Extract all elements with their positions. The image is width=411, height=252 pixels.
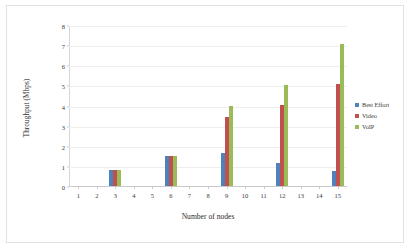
legend-item[interactable]: Best Effort [355,99,389,110]
y-tick-mark [67,46,69,47]
bar-group [220,25,234,186]
bar-voip [284,85,288,186]
y-tick-label: 3 [62,123,65,130]
bar-group [108,25,122,186]
legend-item[interactable]: Video [355,110,389,121]
x-tick-label: 9 [225,192,228,199]
x-tick-label: 3 [114,192,117,199]
x-tick-label: 6 [169,192,172,199]
x-tick-label: 5 [151,192,154,199]
y-tick-label: 2 [62,143,65,150]
bar-voip [117,170,121,186]
legend-swatch-icon [355,125,359,129]
y-tick-label: 0 [62,184,65,191]
x-tick-mark [134,187,135,189]
x-tick-mark [189,187,190,189]
y-tick-mark [67,166,69,167]
chart-frame: Throughput (Mbps) 012345678 123456789101… [6,5,404,243]
bar-group [164,25,178,186]
x-tick-label: 10 [242,192,249,199]
x-tick-label: 1 [77,192,80,199]
x-axis-title: Number of nodes [69,212,347,221]
x-tick-mark [227,187,228,189]
x-tick-mark [152,187,153,189]
x-tick-mark [78,187,79,189]
x-tick-label: 15 [334,192,341,199]
x-tick-mark [115,187,116,189]
legend-item-label: Best Effort [362,101,389,108]
bar-voip [229,106,233,187]
x-tick-label: 11 [260,192,266,199]
x-tick-label: 2 [95,192,98,199]
x-tick-label: 4 [132,192,135,199]
y-tick-label: 8 [62,23,65,30]
x-tick-mark [97,187,98,189]
x-tick-mark [171,187,172,189]
legend-swatch-icon [355,114,359,118]
x-tick-label: 8 [206,192,209,199]
x-tick-label: 7 [188,192,191,199]
x-tick-label: 12 [279,192,286,199]
legend-item-label: VoIP [362,123,374,130]
y-tick-mark [67,106,69,107]
y-tick-label: 5 [62,83,65,90]
y-tick-mark [67,86,69,87]
x-tick-label: 14 [316,192,323,199]
bar-voip [340,44,344,186]
legend-swatch-icon [355,103,359,107]
y-tick-label: 7 [62,43,65,50]
y-tick-mark [67,146,69,147]
x-tick-mark [319,187,320,189]
x-tick-mark [245,187,246,189]
bar-group [275,25,289,186]
y-tick-label: 1 [62,163,65,170]
x-tick-mark [208,187,209,189]
y-tick-mark [67,187,69,188]
x-tick-label: 13 [297,192,304,199]
x-tick-mark [282,187,283,189]
x-tick-mark [338,187,339,189]
x-tick-mark [264,187,265,189]
plot-area: 012345678 123456789101112131415 [69,26,347,187]
y-tick-mark [67,126,69,127]
chart-legend: Best EffortVideoVoIP [355,99,389,132]
y-tick-mark [67,66,69,67]
y-tick-label: 6 [62,63,65,70]
legend-item-label: Video [362,112,377,119]
y-axis-title: Throughput (Mbps) [23,58,31,158]
y-tick-label: 4 [62,103,65,110]
bar-voip [173,156,177,186]
legend-item[interactable]: VoIP [355,121,389,132]
x-tick-mark [301,187,302,189]
bar-group [331,25,345,186]
y-tick-mark [67,26,69,27]
